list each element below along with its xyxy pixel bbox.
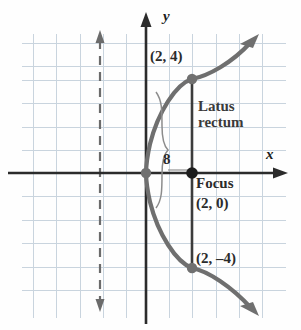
- latus-rectum-label: Latus rectum: [198, 99, 244, 131]
- grid-lines: [22, 34, 286, 318]
- latus-rectum-label-line1: Latus: [198, 99, 244, 115]
- x-axis-label: x: [266, 146, 274, 163]
- upper-latus-point-marker: [187, 74, 197, 84]
- latus-rectum-length-label: 8: [163, 152, 171, 168]
- vertex-point-marker: [141, 168, 151, 178]
- focus-coordinates-label: (2, 0): [196, 196, 229, 212]
- upper-latus-point-label: (2, 4): [150, 49, 183, 65]
- x-axis-arrow: [273, 168, 288, 179]
- parabola-arrow-lower: [240, 302, 259, 316]
- parabola-arrow-upper: [240, 34, 259, 48]
- focus-label: Focus: [196, 176, 234, 192]
- y-axis-label: y: [163, 8, 170, 25]
- y-axis-arrow: [141, 12, 152, 27]
- latus-rectum-label-line2: rectum: [198, 115, 244, 131]
- lower-latus-point-label: (2, –4): [196, 251, 236, 267]
- parabola-figure: y x (2, 4) (2, –4) Latus rectum Focus (2…: [0, 0, 301, 330]
